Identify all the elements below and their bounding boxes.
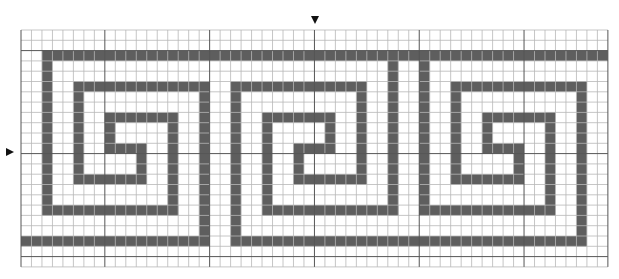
motif-3-segment <box>451 82 587 92</box>
motif-1-segment <box>73 82 209 92</box>
meander-grid-chart <box>0 0 619 279</box>
motif-1-segment <box>105 112 178 122</box>
motif-1-segment <box>73 174 146 184</box>
motif-2-segment <box>262 205 398 215</box>
center-column-marker-arrow-down-icon <box>311 16 319 24</box>
motif-3-segment <box>482 112 555 122</box>
motif-1-segment <box>42 205 178 215</box>
motif-2-segment <box>293 174 366 184</box>
motif-2-segment <box>262 112 335 122</box>
motif-3-segment <box>451 174 524 184</box>
center-row-marker-arrow-right-icon <box>6 148 14 156</box>
motif-3-segment <box>419 205 555 215</box>
motif-2-segment <box>231 82 367 92</box>
